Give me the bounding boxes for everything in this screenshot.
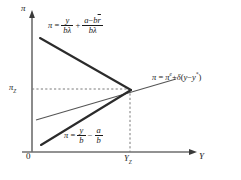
eq-top-num2-rbar: r <box>98 15 101 25</box>
x-axis-arrowhead <box>189 149 197 155</box>
plot-canvas <box>0 0 241 180</box>
y-axis-tick-label-piz: πZ <box>9 83 16 92</box>
eq-bottom-minus: − <box>88 131 93 140</box>
eq-right-close-paren: ) <box>199 72 202 82</box>
eq-bottom-denominator-2: b <box>95 136 103 145</box>
y-axis-label: π <box>21 4 26 13</box>
eq-top-denominator-1: bλ <box>61 26 73 35</box>
eq-bottom-equals: = <box>70 131 75 140</box>
tick-piz-subscript: Z <box>13 88 16 94</box>
eq-top-fraction-1: y bλ <box>61 16 73 35</box>
y-axis-arrowhead <box>29 10 35 18</box>
eq-top-plus: + <box>75 21 80 30</box>
x-axis-tick-label-yz: YZ <box>124 154 132 163</box>
eq-bottom-fraction-1: y b <box>77 126 85 145</box>
x-axis-label: Y <box>199 152 204 161</box>
figure-container: π = y bλ + a−br bλ π = πe+δ(y−y*) π = y … <box>0 0 241 180</box>
eq-top-equals: = <box>54 21 59 30</box>
eq-right-lhs: π <box>152 72 156 82</box>
equation-aggregate-supply: π = y b − a b <box>64 126 103 145</box>
eq-bottom-denominator-1: b <box>77 136 85 145</box>
eq-right-pi-expected: πe <box>165 72 172 82</box>
eq-top-lhs: π <box>48 21 52 30</box>
eq-top-fraction-2: a−br bλ <box>82 16 103 35</box>
phillips-curve-line <box>36 79 176 120</box>
eq-bottom-lhs: π <box>64 131 68 140</box>
tick-yz-subscript: Z <box>129 159 132 165</box>
eq-bottom-fraction-2: a b <box>95 126 103 145</box>
aggregate-demand-downward-line <box>40 38 131 90</box>
eq-top-denominator-2: bλ <box>82 26 103 35</box>
equation-phillips-curve: π = πe+δ(y−y*) <box>152 73 201 82</box>
eq-right-equals: = <box>158 72 163 82</box>
equation-aggregate-demand: π = y bλ + a−br bλ <box>48 16 103 35</box>
origin-label: 0 <box>26 152 31 161</box>
